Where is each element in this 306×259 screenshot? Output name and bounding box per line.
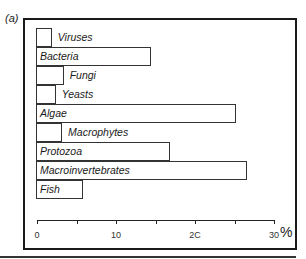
bar-label: Fungi — [70, 66, 96, 85]
x-axis-tick — [77, 220, 78, 224]
bar-label: Viruses — [58, 28, 93, 47]
bar-viruses — [36, 28, 52, 47]
x-axis-tick — [235, 220, 236, 224]
bar-fungi — [36, 66, 64, 85]
chart-frame: VirusesBacteriaFungiYeastsAlgaeMacrophyt… — [23, 18, 297, 250]
x-tick-label: 10 — [111, 230, 121, 240]
bar-yeasts — [36, 85, 56, 104]
bar-label: Macroinvertebrates — [40, 161, 130, 180]
x-tick-label: 2C — [189, 230, 201, 240]
x-axis-tick — [195, 220, 196, 224]
divider-line — [0, 256, 296, 258]
x-tick-label: 0 — [34, 230, 39, 240]
x-axis-tick — [274, 220, 275, 224]
bar-chart: VirusesBacteriaFungiYeastsAlgaeMacrophyt… — [25, 20, 295, 248]
bar-label: Macrophytes — [68, 123, 128, 142]
x-axis-unit-label: % — [280, 224, 292, 240]
bar-label: Protozoa — [40, 142, 82, 161]
bar-macrophytes — [36, 123, 62, 142]
x-axis-tick — [116, 220, 117, 224]
x-axis-tick — [156, 220, 157, 224]
bar-label: Algae — [40, 104, 67, 123]
bar-label: Fish — [40, 180, 60, 199]
bar-label: Yeasts — [62, 85, 94, 104]
x-axis-tick — [37, 220, 38, 224]
panel-label: (a) — [5, 12, 18, 24]
x-tick-label: 30 — [269, 230, 279, 240]
bar-label: Bacteria — [40, 47, 79, 66]
